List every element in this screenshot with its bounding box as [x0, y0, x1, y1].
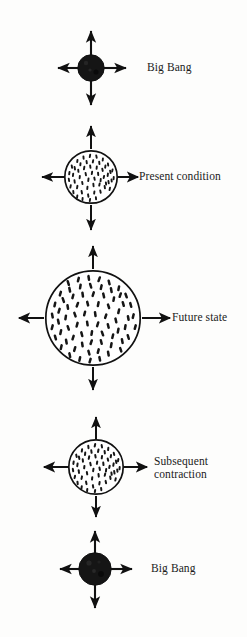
- stage-big-bang-end: [60, 531, 132, 608]
- stage-subsequent-contraction: [44, 417, 147, 517]
- singularity-disc: [78, 55, 104, 81]
- oscillating-universe-figure: Big Bang Present condition Future state …: [0, 0, 247, 637]
- singularity-disc: [79, 553, 111, 585]
- stage-present-condition: [42, 126, 138, 230]
- label-present-condition: Present condition: [139, 170, 221, 183]
- disc-texture-blob: [93, 69, 98, 74]
- label-subsequent-contraction-line1: Subsequent: [154, 455, 208, 468]
- label-big-bang-end: Big Bang: [151, 562, 196, 575]
- disc-texture-blob: [88, 68, 91, 71]
- disc-texture-blob: [86, 560, 91, 565]
- disc-texture-blob: [98, 571, 104, 577]
- label-subsequent-contraction-line2: contraction: [154, 468, 207, 481]
- disc-texture-blob: [97, 560, 100, 563]
- disc-texture-blob: [92, 569, 96, 573]
- disc-texture-blob: [84, 61, 88, 65]
- label-big-bang-start: Big Bang: [147, 61, 192, 74]
- universe-sphere-outline: [46, 271, 140, 365]
- stage-future-state: [19, 246, 170, 390]
- stage-big-bang-start: [58, 31, 126, 105]
- label-future-state: Future state: [172, 311, 227, 324]
